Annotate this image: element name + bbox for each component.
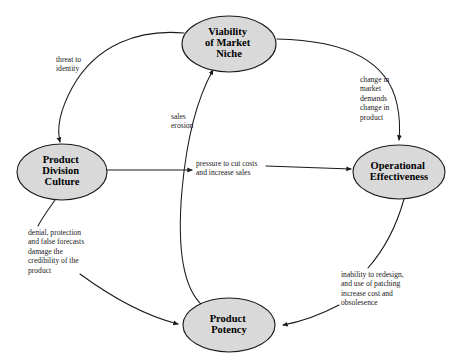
edge-culture-to-potency-label: denial, protection and false forecasts d…	[28, 228, 86, 275]
edge-viability-to-operational-label: change in market demands change in produ…	[360, 75, 391, 122]
edge-viability-to-culture: threat to identity	[56, 32, 184, 142]
label-line: and use of patching	[341, 279, 400, 288]
label-line: inability to redesign,	[341, 270, 404, 279]
label-line: and false forecasts	[28, 237, 84, 246]
node-label-line: Culture	[45, 176, 80, 187]
node-operational-effectiveness[interactable]: Operational Effectiveness	[353, 145, 445, 199]
edge-potency-to-viability: sales erosion	[171, 70, 213, 306]
edge-culture-to-operational: pressure to cut costs and increase sales	[107, 159, 351, 177]
edge-potency-to-viability-label: sales erosion	[171, 112, 194, 130]
label-line: identity	[56, 64, 79, 73]
node-label-line: Effectiveness	[370, 171, 428, 182]
label-line: increase cost and	[341, 289, 393, 298]
edge-culture-to-potency: denial, protection and false forecasts d…	[28, 200, 178, 324]
node-label: Product Division Culture	[42, 154, 81, 187]
node-label-line: Potency	[211, 324, 247, 335]
edge-operational-to-potency-path-lower	[283, 305, 339, 325]
node-label-line: of Market	[205, 37, 251, 48]
label-line: change in	[360, 75, 390, 84]
diagram-canvas: threat to identity change in market dema…	[0, 0, 457, 361]
label-line: sales	[171, 112, 186, 121]
edge-culture-to-operational-path-right	[266, 166, 351, 169]
node-product-potency[interactable]: Product Potency	[183, 298, 275, 352]
label-line: obsolesence	[341, 298, 378, 307]
node-product-division-culture[interactable]: Product Division Culture	[17, 144, 107, 200]
edge-operational-to-potency: inability to redesign, and use of patchi…	[283, 199, 406, 325]
node-label-line: Operational	[371, 160, 425, 171]
edge-culture-to-potency-path-lower	[80, 274, 178, 324]
edge-viability-to-operational: change in market demands change in produ…	[277, 39, 400, 140]
causal-loop-diagram: threat to identity change in market dema…	[0, 0, 457, 361]
label-line: threat to	[56, 55, 81, 64]
node-label-line: Product	[43, 154, 79, 165]
label-line: damage the	[28, 247, 63, 256]
label-line: market	[360, 84, 382, 93]
node-label: Product Potency	[210, 313, 249, 335]
label-line: demands	[360, 94, 387, 103]
edge-operational-to-potency-path	[368, 199, 404, 268]
edge-culture-to-potency-path	[38, 200, 55, 226]
node-label-line: Niche	[216, 48, 242, 59]
edge-operational-to-potency-label: inability to redesign, and use of patchi…	[341, 270, 406, 307]
label-line: product	[360, 113, 384, 122]
edge-viability-to-culture-label: threat to identity	[56, 55, 83, 73]
node-label-line: Product	[210, 313, 246, 324]
node-label-line: Viability	[208, 26, 247, 37]
label-line: change in	[360, 103, 390, 112]
node-label-line: Division	[42, 165, 79, 176]
label-line: product	[28, 266, 52, 275]
node-viability-of-market-niche[interactable]: Viability of Market Niche	[182, 16, 276, 72]
label-line: and increase sales	[196, 168, 250, 177]
edge-culture-to-operational-label: pressure to cut costs and increase sales	[196, 159, 259, 177]
edge-viability-to-culture-path	[59, 32, 184, 142]
label-line: denial, protection	[28, 228, 81, 237]
label-line: pressure to cut costs	[196, 159, 257, 168]
edge-potency-to-viability-path	[180, 70, 213, 306]
label-line: erosion	[171, 121, 194, 130]
node-label: Operational Effectiveness	[370, 160, 428, 182]
label-line: credibility of the	[28, 256, 79, 265]
